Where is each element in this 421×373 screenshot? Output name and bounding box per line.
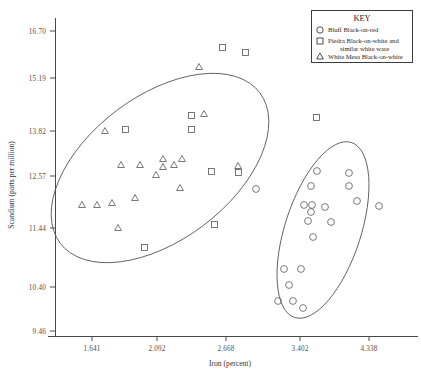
data-point-triangle [196, 64, 203, 70]
y-tick-label: 16.70 [29, 28, 46, 36]
chart-canvas: 16.70 15.19 13.82 12.57 11.44 10.40 9.46… [0, 0, 421, 373]
x-axis-title: Iron (percent) [209, 359, 251, 368]
data-point-circle [308, 183, 315, 190]
data-point-triangle [177, 185, 184, 191]
legend-label-white-mesa: White Mesa Black-on-white [328, 53, 403, 60]
data-point-circle [301, 202, 308, 209]
y-tick-label: 15.19 [29, 75, 46, 83]
data-point-circle [290, 298, 297, 305]
data-point-triangle [235, 163, 242, 169]
x-tick-label: 1.641 [83, 345, 100, 353]
x-tick-label: 3.402 [291, 345, 308, 353]
data-point-triangle [153, 172, 160, 178]
series-white-mesa-black-on-white [79, 64, 242, 231]
x-tick-label: 2.668 [217, 345, 234, 353]
data-point-square [123, 127, 129, 133]
data-point-square [142, 245, 148, 251]
series-bluff-black-on-red [253, 168, 383, 312]
data-point-triangle [132, 195, 139, 201]
data-point-square [236, 170, 242, 176]
data-point-circle [305, 218, 312, 225]
data-point-triangle [160, 164, 167, 170]
series-piedra-black-on-white [123, 45, 320, 251]
y-axis-title: Scandium (parts per million) [7, 141, 16, 229]
x-tick-label: 4.338 [360, 345, 377, 353]
legend: KEY Bluff Black-on-red Piedra Black-on-w… [312, 11, 413, 63]
y-tick-label: 13.82 [29, 128, 46, 136]
x-tick-label: 2.092 [148, 345, 165, 353]
y-axis-ticks: 16.70 15.19 13.82 12.57 11.44 10.40 9.46 [29, 28, 56, 336]
data-point-circle [298, 266, 305, 273]
data-point-triangle [137, 162, 144, 168]
data-point-triangle [160, 156, 167, 162]
data-point-square [189, 113, 195, 119]
right-cluster-ellipse [258, 131, 387, 329]
data-point-triangle [179, 156, 186, 162]
cluster-ellipses [17, 35, 388, 329]
data-point-triangle [102, 128, 109, 134]
data-point-triangle [171, 162, 178, 168]
data-point-circle [308, 209, 315, 216]
data-point-circle [300, 305, 307, 312]
y-tick-label: 9.46 [33, 328, 47, 336]
data-point-circle [322, 204, 329, 211]
data-point-circle [328, 219, 335, 226]
data-point-triangle [115, 225, 122, 231]
data-point-square [314, 115, 320, 121]
data-point-circle [286, 282, 293, 289]
data-point-triangle [94, 202, 101, 208]
data-point-square [220, 45, 226, 51]
data-point-circle [354, 198, 361, 205]
legend-label-bluff: Bluff Black-on-red [328, 26, 379, 33]
data-point-square [189, 127, 195, 133]
legend-label-piedra-line2: similar white ware [340, 45, 389, 52]
legend-title: KEY [353, 14, 370, 23]
data-point-square [243, 50, 249, 56]
data-point-circle [346, 170, 353, 177]
data-point-circle [281, 266, 288, 273]
scatter-plot-figure: 16.70 15.19 13.82 12.57 11.44 10.40 9.46… [0, 0, 421, 373]
data-point-circle [314, 168, 321, 175]
y-tick-label: 11.44 [29, 225, 46, 233]
y-tick-label: 12.57 [29, 173, 46, 181]
data-point-circle [376, 203, 383, 210]
data-point-circle [346, 183, 353, 190]
data-point-square [209, 169, 215, 175]
data-point-circle [309, 202, 316, 209]
legend-label-piedra: Piedra Black-on-white and [328, 37, 399, 44]
data-point-circle [253, 186, 260, 193]
data-point-triangle [109, 200, 116, 206]
data-point-triangle [201, 111, 208, 117]
data-point-square [212, 222, 218, 228]
data-point-circle [310, 234, 317, 241]
data-point-triangle [79, 202, 86, 208]
y-tick-label: 10.40 [29, 284, 46, 292]
data-point-triangle [118, 162, 125, 168]
x-axis-ticks: 1.641 2.092 2.668 3.402 4.338 [83, 336, 377, 353]
axes [48, 18, 418, 337]
